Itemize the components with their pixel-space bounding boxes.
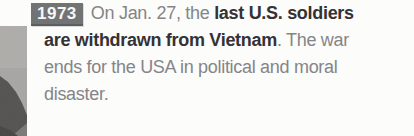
- entry-text-bold: last U.S. soldiers: [214, 3, 354, 23]
- entry-text-regular: . The war: [277, 30, 349, 50]
- entry-text-regular: ends for the USA in political and moral: [44, 57, 337, 77]
- text-line-1: 1973On Jan. 27, the last U.S. soldiers: [44, 0, 414, 27]
- photo-fragment: [0, 26, 27, 136]
- entry-text-regular: disaster.: [44, 84, 108, 104]
- year-badge: 1973: [31, 3, 83, 26]
- text-line-3: ends for the USA in political and moral: [44, 54, 414, 81]
- photo-fragment-image: [0, 26, 27, 136]
- entry-text-regular: On Jan. 27, the: [91, 3, 214, 23]
- timeline-entry: 1973On Jan. 27, the last U.S. soldiers a…: [44, 0, 414, 108]
- entry-text-bold: are withdrawn from Vietnam: [44, 30, 277, 50]
- text-line-4: disaster.: [44, 81, 414, 108]
- text-line-2: are withdrawn from Vietnam. The war: [44, 27, 414, 54]
